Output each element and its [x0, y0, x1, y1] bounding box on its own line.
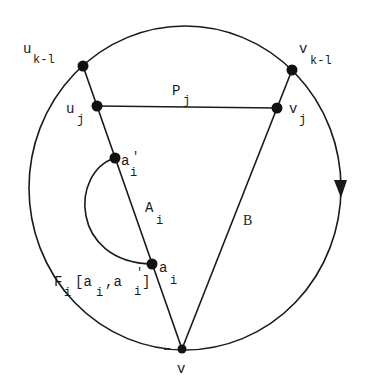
svg-text:k-l: k-l	[33, 53, 55, 67]
edge-f-i-arc	[85, 158, 152, 264]
node-v-k-1	[287, 65, 298, 76]
svg-text:i: i	[134, 285, 141, 299]
svg-text:[a: [a	[75, 274, 92, 290]
svg-text:u: u	[66, 101, 74, 117]
direction-arrow-icon	[334, 180, 347, 198]
node-a-i	[147, 259, 158, 270]
label-v: v	[177, 361, 185, 377]
svg-text:v: v	[289, 101, 297, 117]
label-v-j: v j	[289, 101, 306, 127]
label-u-j: u j	[66, 101, 84, 127]
svg-text:i: i	[170, 274, 177, 288]
svg-text:a: a	[159, 260, 167, 276]
svg-text:u: u	[23, 41, 31, 57]
label-a-i: a i	[159, 260, 177, 288]
svg-text:a: a	[121, 153, 129, 169]
svg-text:j: j	[183, 94, 190, 108]
svg-text:B: B	[243, 213, 252, 228]
node-u-j	[92, 101, 103, 112]
node-v	[178, 345, 187, 354]
label-a-i-path: A i	[145, 200, 163, 228]
node-u-k-1	[78, 61, 89, 72]
svg-text:,a: ,a	[105, 274, 122, 290]
label-a-i-prime: a ' i	[121, 150, 139, 180]
svg-text:v: v	[177, 361, 185, 377]
svg-text:i: i	[96, 286, 103, 300]
label-v-k-1: v k-l	[299, 41, 332, 68]
node-a-i-prime	[110, 153, 121, 164]
svg-text:i: i	[156, 214, 163, 228]
svg-text:j: j	[77, 113, 84, 127]
svg-text:i: i	[130, 166, 137, 180]
label-b: B	[243, 213, 252, 228]
svg-text:i: i	[64, 286, 71, 300]
svg-text:]: ]	[142, 274, 150, 290]
svg-text:v: v	[299, 41, 307, 57]
svg-text:F: F	[54, 274, 62, 290]
svg-text:j: j	[299, 113, 306, 127]
svg-text:P: P	[172, 83, 180, 99]
svg-text:A: A	[145, 200, 154, 216]
svg-text:': '	[132, 150, 139, 164]
diagram-canvas: u k-l u j v k-l v j P j a ' i A i B a i …	[0, 0, 367, 392]
label-u-k-1: u k-l	[23, 41, 55, 67]
node-v-j	[272, 103, 283, 114]
label-f-i: F i [a i ,a ' i ]	[54, 266, 150, 300]
svg-text:k-l: k-l	[310, 54, 332, 68]
label-p-j: P j	[172, 83, 190, 108]
